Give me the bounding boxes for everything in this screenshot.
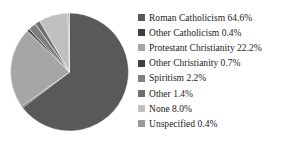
legend-item-label: Protestant Christianity 22.2% bbox=[149, 43, 262, 53]
legend-color-swatch-icon bbox=[138, 105, 145, 112]
pie-slice-group bbox=[11, 13, 129, 131]
legend-item: Roman Catholicism 64.6% bbox=[136, 10, 290, 25]
legend-item-label: None 8.0% bbox=[149, 104, 192, 114]
legend-item: Protestant Christianity 22.2% bbox=[136, 40, 290, 55]
legend-color-swatch-icon bbox=[138, 60, 145, 67]
legend-item-label: Spiritism 2.2% bbox=[149, 73, 206, 83]
legend-item: Other Christianity 0.7% bbox=[136, 56, 290, 71]
legend-color-swatch-icon bbox=[138, 120, 145, 127]
legend-color-swatch-icon bbox=[138, 75, 145, 82]
legend-item-label: Unspecified 0.4% bbox=[149, 119, 217, 129]
legend-item-label: Roman Catholicism 64.6% bbox=[149, 13, 252, 23]
legend-item: None 8.0% bbox=[136, 101, 290, 116]
legend-item-label: Other Catholicism 0.4% bbox=[149, 28, 242, 38]
legend-color-swatch-icon bbox=[138, 14, 145, 21]
legend-item-label: Other 1.4% bbox=[149, 89, 193, 99]
legend-item: Unspecified 0.4% bbox=[136, 116, 290, 131]
legend-color-swatch-icon bbox=[138, 29, 145, 36]
legend-item: Other Catholicism 0.4% bbox=[136, 25, 290, 40]
chart-page: Roman Catholicism 64.6%Other Catholicism… bbox=[0, 0, 292, 146]
legend-item: Other 1.4% bbox=[136, 86, 290, 101]
legend-color-swatch-icon bbox=[138, 90, 145, 97]
legend-item: Spiritism 2.2% bbox=[136, 71, 290, 86]
pie-chart bbox=[10, 12, 129, 132]
legend-color-swatch-icon bbox=[138, 44, 145, 51]
chart-legend: Roman Catholicism 64.6%Other Catholicism… bbox=[136, 10, 290, 132]
legend-item-label: Other Christianity 0.7% bbox=[149, 58, 241, 68]
pie-chart-svg bbox=[10, 12, 129, 132]
